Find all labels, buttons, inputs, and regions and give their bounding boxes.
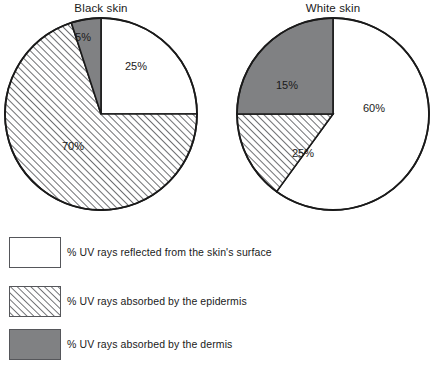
legend-swatch-solid-gray-icon xyxy=(9,329,61,360)
legend-item-reflected: % UV rays reflected from the skin's surf… xyxy=(9,237,429,269)
legend-swatch-white-icon xyxy=(9,237,61,268)
slice-label-white-reflected: 60% xyxy=(354,102,394,114)
slice-label-white-dermis: 15% xyxy=(267,79,307,91)
legend-item-dermis: % UV rays absorbed by the dermis xyxy=(9,329,429,361)
chart-legend: % UV rays reflected from the skin's surf… xyxy=(0,228,439,367)
slice-label-black-reflected: 25% xyxy=(116,60,156,72)
slice-white-dermis xyxy=(237,18,333,114)
slice-label-white-epidermis: 25% xyxy=(283,147,323,159)
pie-title-white-skin: White skin xyxy=(273,2,393,15)
legend-label-dermis: % UV rays absorbed by the dermis xyxy=(67,338,232,351)
legend-label-epidermis: % UV rays absorbed by the epidermis xyxy=(67,295,247,308)
slice-label-black-dermis: 5% xyxy=(66,31,100,43)
pie-title-black-skin: Black skin xyxy=(41,2,161,15)
pie-charts-area: Black skin White skin 25% 70% 5% 60% 25%… xyxy=(0,0,439,228)
legend-item-epidermis: % UV rays absorbed by the epidermis xyxy=(9,286,429,318)
slice-label-black-epidermis: 70% xyxy=(53,140,93,152)
legend-swatch-hatch-icon xyxy=(9,286,61,317)
legend-hatch-pattern-icon xyxy=(10,287,60,316)
legend-label-reflected: % UV rays reflected from the skin's surf… xyxy=(67,246,272,259)
